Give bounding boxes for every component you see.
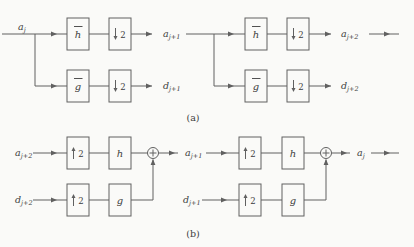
arrowhead-icon [169,151,175,156]
lowpass-filter-box: h [109,137,131,169]
svg-text:2: 2 [120,30,125,40]
svg-text:g: g [290,195,296,206]
analysis-signal-lines [2,34,399,86]
arrowhead-icon [384,151,390,156]
caption-b: (b) [186,228,200,239]
adder-node [321,148,332,159]
adder-node [148,148,159,159]
arrowhead-icon [324,159,329,165]
signal-label-aj1-output: aj+1 [185,147,202,160]
arrowhead-icon [221,151,227,156]
svg-text:h: h [290,148,296,159]
svg-text:2: 2 [78,149,83,159]
arrowhead-icon [228,32,234,37]
arrowhead-icon [51,151,57,156]
lowpass-filter-box: h [282,137,304,169]
arrowhead-icon [146,32,152,37]
panel-analysis: aj h 2 g 2 aj+1 dj+1 [2,18,399,123]
plus-icon [323,150,330,157]
up-arrow-icon [72,147,76,151]
arrowhead-icon [228,84,234,89]
signal-label-dj2-input: dj+2 [15,194,33,207]
downsampler-box: 2 [287,70,309,102]
downsampler-box: 2 [287,18,309,50]
downsampler-box: 2 [109,18,131,50]
panel-synthesis: aj+2 dj+2 2 h 2 g aj+1 [15,137,399,239]
downsampler-box: 2 [109,70,131,102]
arrowhead-icon [51,84,57,89]
arrowhead-icon [325,84,331,89]
up-arrow-icon [72,194,76,198]
signal-label-aj2-input: aj+2 [15,147,32,160]
caption-a: (a) [186,112,199,123]
highpass-filter-box: g [245,70,267,102]
highpass-filter-box: g [282,184,304,216]
arrowhead-icon [151,159,156,165]
highpass-filter-box: g [109,184,131,216]
up-arrow-icon [244,194,248,198]
down-arrow-icon [114,88,118,92]
signal-label-dj1-input: dj+1 [183,194,201,207]
upsampler-box: 2 [239,184,261,216]
svg-text:2: 2 [298,30,303,40]
up-arrow-icon [244,147,248,151]
svg-text:g: g [117,195,123,206]
lowpass-filter-box: h [67,18,89,50]
signal-label-dj1: dj+1 [163,80,181,93]
arrowhead-icon [51,32,57,37]
svg-text:h: h [117,148,123,159]
signal-label-aj2: aj+2 [341,28,358,41]
arrowhead-icon [341,151,347,156]
signal-label-aj1: aj+1 [163,28,180,41]
arrowhead-icon [384,32,390,37]
svg-text:2: 2 [298,82,303,92]
arrowhead-icon [146,84,152,89]
svg-text:2: 2 [78,196,83,206]
signal-label-aj-input: aj [18,21,26,34]
svg-text:h: h [75,29,81,40]
wavelet-filter-bank-diagram: aj h 2 g 2 aj+1 dj+1 [0,0,414,247]
arrowhead-icon [51,198,57,203]
svg-text:2: 2 [250,196,255,206]
signal-label-dj2: dj+2 [341,80,359,93]
synthesis-signal-lines [33,153,399,200]
down-arrow-icon [114,36,118,40]
signal-label-aj-output: aj [357,147,365,160]
svg-text:2: 2 [250,149,255,159]
svg-text:g: g [253,81,259,92]
down-arrow-icon [292,36,296,40]
upsampler-box: 2 [67,184,89,216]
arrowhead-icon [325,32,331,37]
highpass-filter-box: g [67,70,89,102]
svg-text:h: h [253,29,259,40]
upsampler-box: 2 [239,137,261,169]
lowpass-filter-box: h [245,18,267,50]
svg-text:2: 2 [120,82,125,92]
plus-icon [150,150,157,157]
down-arrow-icon [292,88,296,92]
arrowhead-icon [221,198,227,203]
upsampler-box: 2 [67,137,89,169]
svg-text:g: g [75,81,81,92]
